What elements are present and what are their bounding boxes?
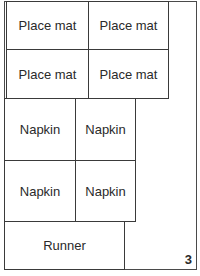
piece-label: Place mat xyxy=(19,18,77,33)
napkin-4: Napkin xyxy=(75,160,136,222)
place-mat-2: Place mat xyxy=(88,1,169,50)
piece-label: Napkin xyxy=(20,122,60,137)
piece-label: Napkin xyxy=(20,184,60,199)
napkin-2: Napkin xyxy=(75,98,136,161)
napkin-3: Napkin xyxy=(4,160,76,222)
piece-label: Napkin xyxy=(85,184,125,199)
figure-number: 3 xyxy=(185,252,192,267)
piece-label: Runner xyxy=(43,238,86,253)
place-mat-3: Place mat xyxy=(6,49,89,99)
napkin-1: Napkin xyxy=(4,98,76,161)
place-mat-1: Place mat xyxy=(6,1,89,50)
piece-label: Napkin xyxy=(85,122,125,137)
piece-label: Place mat xyxy=(100,67,158,82)
place-mat-4: Place mat xyxy=(88,49,169,99)
runner: Runner xyxy=(4,221,125,270)
piece-label: Place mat xyxy=(100,18,158,33)
piece-label: Place mat xyxy=(19,67,77,82)
